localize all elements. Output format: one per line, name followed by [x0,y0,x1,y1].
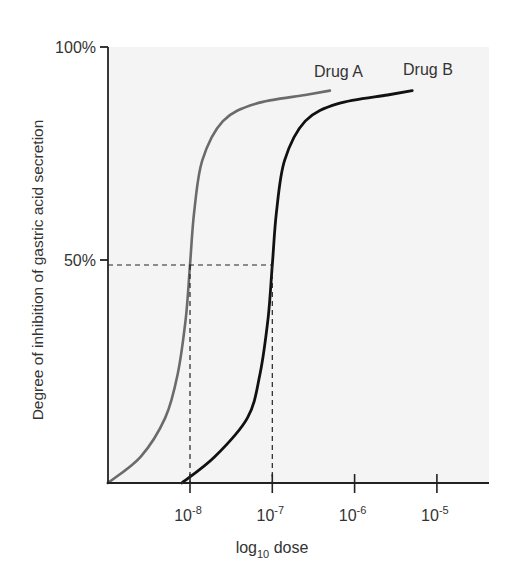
legend-label-drug-b: Drug B [403,61,453,78]
x-tick-label-3: 10-6 [339,504,367,524]
dose-response-chart: 10-810-710-610-5 100% 50% Degree of inhi… [0,0,510,580]
x-tick-label-2: 10-7 [257,504,285,524]
x-tick-label-1: 10-8 [174,504,202,524]
legend-label-drug-a: Drug A [314,63,363,80]
y-axis-label: Degree of inhibition of gastric acid sec… [29,120,46,421]
y-tick-label-100: 100% [55,39,96,56]
y-tick-label-50: 50% [64,252,96,269]
x-tick-label-4: 10-5 [421,504,449,524]
x-axis-label: log10 dose [236,539,309,560]
